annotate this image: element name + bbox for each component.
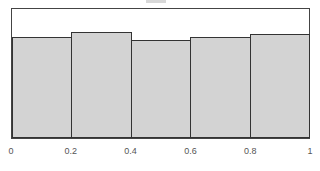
- title-fragment: [146, 0, 166, 3]
- histogram-bar: [71, 32, 131, 138]
- plot-area: [11, 8, 310, 139]
- histogram-bar: [12, 37, 72, 138]
- x-tick-label: 0: [8, 146, 13, 156]
- x-tick-label: 0.8: [244, 146, 257, 156]
- histogram-bar: [250, 34, 310, 138]
- x-tick-label: 0.2: [65, 146, 78, 156]
- histogram-bar: [190, 37, 250, 138]
- x-tick-label: 0.4: [124, 146, 137, 156]
- x-tick-label: 0.6: [184, 146, 197, 156]
- x-tick-label: 1: [307, 146, 312, 156]
- histogram-bar: [131, 40, 191, 138]
